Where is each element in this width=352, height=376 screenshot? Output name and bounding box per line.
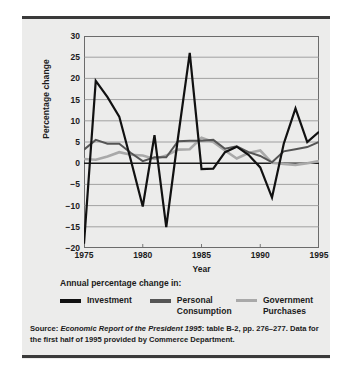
legend-swatch-icon (60, 299, 81, 303)
y-tick-label: 15 (44, 96, 80, 104)
legend-swatch-icon (236, 299, 257, 302)
x-tick-label: 1985 (182, 250, 222, 260)
bottom-rule (22, 355, 330, 358)
legend-item: PersonalConsumption (150, 295, 236, 317)
y-tick-label: 10 (44, 117, 80, 125)
source-note: Source: Economic Report of the President… (30, 323, 322, 345)
x-axis-label: Year (84, 264, 319, 274)
legend: Annual percentage change in: InvestmentP… (60, 278, 322, 317)
x-tick-label: 1990 (240, 250, 280, 260)
y-tick-label: −10 (44, 202, 80, 210)
y-tick-label: 0 (44, 159, 80, 167)
plot-lines (84, 36, 319, 248)
legend-item: Investment (60, 295, 150, 306)
y-tick-label: 20 (44, 74, 80, 82)
y-tick-label: 30 (44, 32, 80, 40)
source-title: Economic Report of the President 1995 (60, 324, 201, 333)
x-axis-ticks: 19751980198519901995 (22, 250, 330, 264)
chart: Percentage change 302520151050−5−10−15−2… (22, 22, 330, 272)
legend-swatch-icon (150, 299, 171, 303)
series-line (84, 53, 319, 244)
legend-title: Annual percentage change in: (60, 278, 322, 288)
legend-item: GovernmentPurchases (236, 295, 322, 317)
y-tick-label: −5 (44, 180, 80, 188)
y-tick-label: −15 (44, 223, 80, 231)
x-tick-label: 1995 (299, 250, 339, 260)
source-label: Source (30, 324, 56, 333)
figure-container: Percentage change 302520151050−5−10−15−2… (0, 0, 352, 376)
y-axis-ticks: 302520151050−5−10−15−20 (40, 22, 80, 248)
y-tick-label: 25 (44, 53, 80, 61)
x-tick-label: 1980 (123, 250, 163, 260)
top-rule (22, 16, 330, 19)
legend-item-label: Investment (87, 295, 132, 306)
legend-items: InvestmentPersonalConsumptionGovernmentP… (60, 295, 322, 317)
y-tick-label: 5 (44, 138, 80, 146)
legend-item-label: PersonalConsumption (177, 295, 232, 317)
x-tick-label: 1975 (64, 250, 104, 260)
legend-item-label: GovernmentPurchases (263, 295, 313, 317)
